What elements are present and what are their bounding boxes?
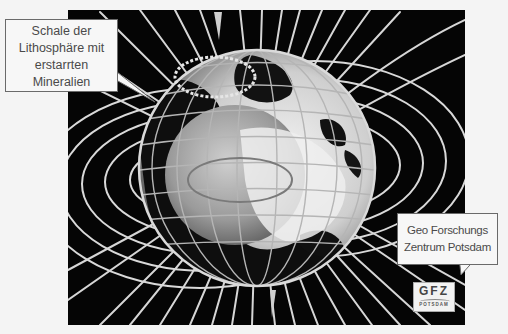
callout-line: erstarrten [6, 57, 117, 74]
figure: Schale der Lithosphäre mit erstarrten Mi… [0, 0, 508, 334]
callout-line: Mineralien [6, 74, 117, 91]
callout-line: Geo Forschungs [398, 222, 497, 239]
callout-line: Lithosphäre mit [6, 40, 117, 57]
logo-main-text: GFZ [414, 285, 454, 298]
gfz-logo: GFZ POTSDAM [413, 282, 455, 312]
magnetic-field-illustration [68, 10, 465, 325]
callout-gfz: Geo Forschungs Zentrum Potsdam [397, 213, 498, 265]
callout-line: Schale der [6, 23, 117, 40]
earth-magnetosphere-graphic [68, 10, 465, 325]
callout-lithosphere: Schale der Lithosphäre mit erstarrten Mi… [5, 19, 118, 92]
logo-arc-icon [420, 299, 450, 304]
callout-line: Zentrum Potsdam [398, 239, 497, 256]
